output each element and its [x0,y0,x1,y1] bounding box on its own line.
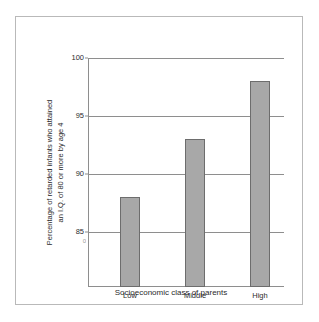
ytick-label-90: 90 [76,170,84,178]
bar-low[interactable] [120,197,140,287]
gridline-100: 100 [88,58,284,59]
axis-break-marker: 0 [80,238,86,245]
ytick-label-85: 85 [76,228,84,236]
y-axis-title-line1: Percentage of retarded infants who attai… [44,58,55,287]
figure-frame: 100 95 90 85 0 Low [15,16,303,305]
y-axis-title-line2: an I.Q. of 80 or more by age 4 [55,58,66,287]
ytick-label-95: 95 [76,112,84,120]
plot-area: 100 95 90 85 0 Low [88,58,284,287]
y-axis-title: Percentage of retarded infants who attai… [44,58,70,287]
x-axis-title: Socioeconomic class of parents [73,289,269,297]
bar-high[interactable] [250,81,270,287]
y-axis-line [88,58,89,287]
chart-figure: 100 95 90 85 0 Low [0,0,319,322]
bar-middle[interactable] [185,139,205,287]
ytick-label-100: 100 [71,54,84,62]
